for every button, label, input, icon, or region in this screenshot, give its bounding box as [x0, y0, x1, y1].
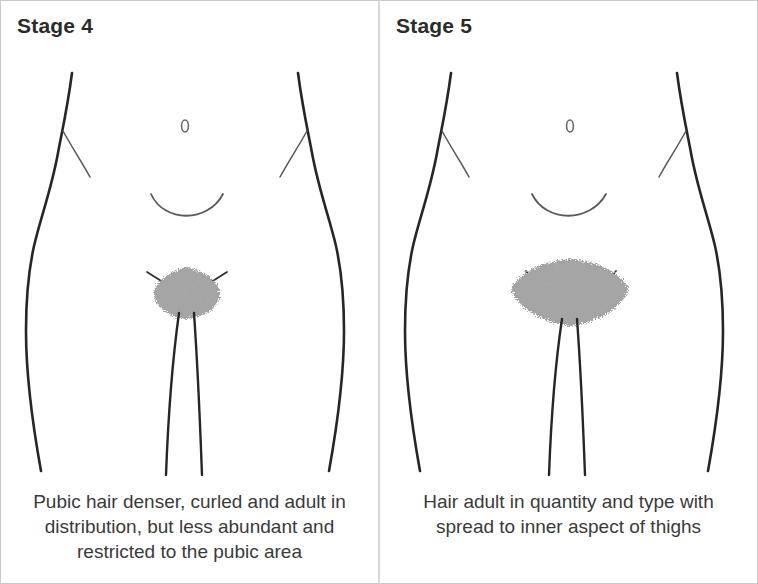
body-outline-right-side	[677, 73, 723, 471]
stage-comparison-figure: Stage 4	[0, 0, 758, 584]
panel-stage-4: Stage 4	[0, 0, 379, 584]
figure-illustration-stage-4	[1, 1, 378, 485]
contour-line-right-rib	[659, 131, 686, 177]
panel-title-stage-4: Stage 4	[17, 15, 93, 36]
body-outline-right-side	[298, 73, 344, 471]
contour-line-left-rib	[442, 131, 469, 177]
figure-illustration-stage-5	[380, 1, 757, 485]
navel-marker	[182, 120, 189, 132]
inner-thigh-line-right	[577, 319, 585, 475]
contour-line-left-rib	[63, 131, 90, 177]
caption-line: Pubic hair denser, curled and adult in	[11, 489, 368, 514]
caption-line: restricted to the pubic area	[11, 539, 368, 564]
body-outline-left-side	[405, 73, 451, 471]
inner-thigh-line-right	[194, 313, 202, 475]
abdominal-crease-line	[151, 194, 223, 216]
body-outline-left-side	[26, 73, 72, 471]
inner-thigh-line-left	[166, 313, 179, 475]
caption-stage-5: Hair adult in quantity and type with spr…	[390, 489, 747, 539]
caption-line: spread to inner aspect of thighs	[390, 514, 747, 539]
panel-title-stage-5: Stage 5	[396, 15, 472, 36]
contour-line-right-rib	[280, 131, 307, 177]
caption-line: Hair adult in quantity and type with	[390, 489, 747, 514]
navel-marker	[567, 120, 574, 132]
caption-line: distribution, but less abundant and	[11, 514, 368, 539]
inner-thigh-line-left	[549, 319, 562, 475]
caption-stage-4: Pubic hair denser, curled and adult in d…	[11, 489, 368, 564]
panel-stage-5: Stage 5	[379, 0, 758, 584]
abdominal-crease-line	[532, 194, 606, 216]
